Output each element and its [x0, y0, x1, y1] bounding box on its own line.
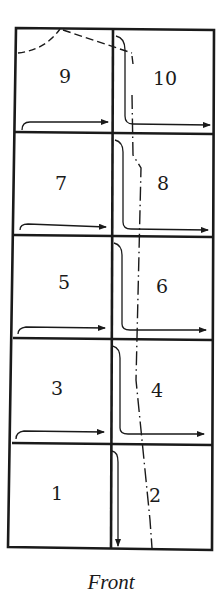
cell-label-10: 10	[153, 67, 177, 89]
arrow-down-icon	[112, 451, 118, 546]
cell-label-6: 6	[156, 275, 168, 297]
arrow-right-icon	[16, 431, 104, 439]
grid-lines	[8, 28, 214, 550]
arrow-right-icon	[20, 224, 106, 230]
row-divider	[14, 235, 212, 237]
cell-label-4: 4	[151, 379, 163, 401]
cell-labels: 9 10 7 8 5 6 3 4 1 2	[51, 65, 177, 506]
row-divider	[13, 338, 212, 340]
cell-label-9: 9	[59, 65, 71, 87]
cell-label-8: 8	[157, 172, 169, 194]
cell-label-1: 1	[51, 482, 63, 504]
arrow-right-icon	[22, 122, 108, 130]
row-divider	[15, 132, 213, 134]
row-divider	[12, 443, 212, 445]
arrow-right-icon	[18, 327, 105, 334]
cell-label-7: 7	[55, 172, 67, 194]
cell-label-3: 3	[51, 377, 63, 399]
dashed-boundary	[18, 29, 152, 548]
dash-dot-line	[132, 95, 152, 548]
dash-mark	[132, 56, 133, 64]
zone-grid-diagram: 9 10 7 8 5 6 3 4 1 2	[0, 0, 222, 606]
dashed-arc	[18, 29, 60, 53]
diagram-caption: Front	[0, 570, 222, 595]
cell-label-5: 5	[58, 271, 70, 293]
dashed-line	[63, 30, 132, 53]
cell-label-2: 2	[149, 484, 161, 506]
center-divider	[111, 29, 113, 548]
